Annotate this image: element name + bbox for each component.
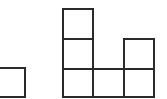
grid-cell-col1-row2 — [62, 38, 94, 70]
grid-cell-col1-row3 — [62, 68, 94, 98]
grid-cell-left-partial — [0, 67, 26, 98]
grid-cell-col3-row3 — [123, 68, 155, 98]
grid-cell-col2-row3 — [92, 68, 125, 98]
grid-cell-col3-row2 — [123, 38, 155, 70]
grid-cell-col1-row1 — [62, 8, 94, 40]
